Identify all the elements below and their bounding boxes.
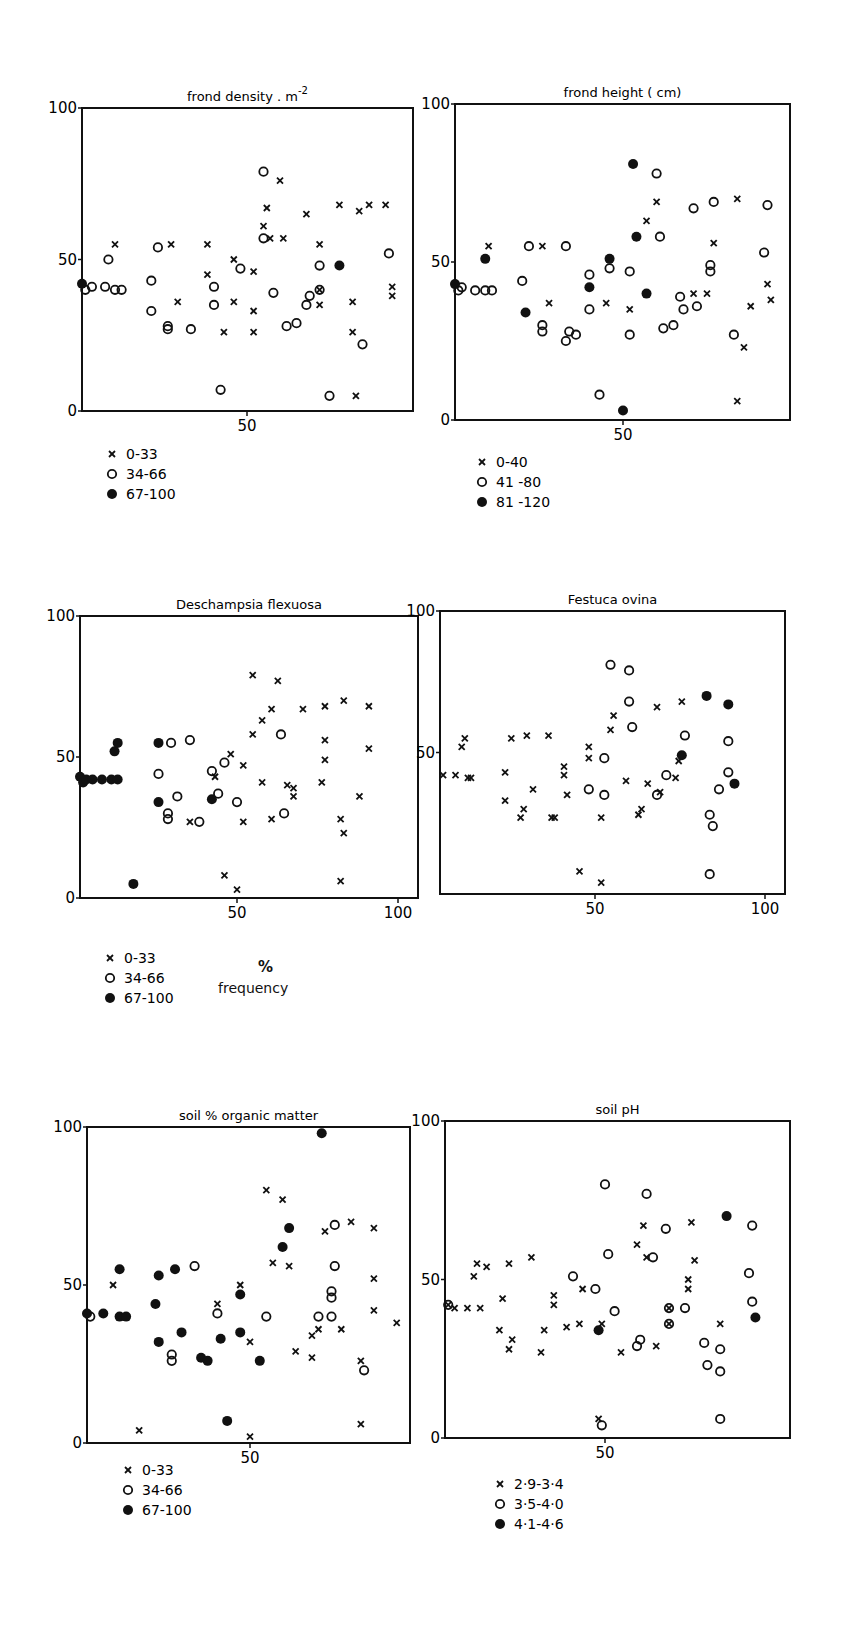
open-circle-marker bbox=[748, 1297, 756, 1305]
open-circle-marker bbox=[220, 758, 228, 766]
open-circle-marker bbox=[652, 169, 660, 177]
cross-marker bbox=[768, 297, 774, 303]
filled-circle-marker bbox=[113, 775, 123, 785]
x-axis-unit-label: % bbox=[258, 958, 273, 976]
cross-marker bbox=[204, 241, 210, 247]
open-circle-marker bbox=[195, 818, 203, 826]
cross-marker bbox=[322, 737, 328, 743]
cross-marker bbox=[251, 329, 257, 335]
x-tick-label: 50 bbox=[237, 417, 256, 435]
open-circle-marker bbox=[562, 337, 570, 345]
legend-label: 67-100 bbox=[126, 486, 176, 502]
legend-label: 0-33 bbox=[126, 446, 158, 462]
cross-marker bbox=[486, 243, 492, 249]
filled-circle-marker bbox=[216, 1334, 226, 1344]
cross-marker bbox=[691, 291, 697, 297]
open-circle-marker bbox=[259, 167, 267, 175]
filled-circle-marker bbox=[677, 750, 687, 760]
open-circle-marker bbox=[689, 204, 697, 212]
panel-title: soil % organic matter bbox=[179, 1108, 319, 1123]
cross-marker bbox=[654, 704, 660, 710]
y-tick-label: 0 bbox=[430, 1429, 440, 1447]
panel-title: frond density . m-2 bbox=[187, 85, 308, 104]
filled-circle-marker bbox=[594, 1325, 604, 1335]
legend-label: 4·1-4·6 bbox=[514, 1516, 564, 1532]
legend-cross-icon bbox=[109, 451, 115, 457]
filled-circle-marker bbox=[584, 282, 594, 292]
plot-frame bbox=[455, 104, 790, 420]
series-34-66 bbox=[81, 167, 393, 400]
open-circle-marker bbox=[331, 1262, 339, 1270]
cross-marker bbox=[240, 762, 246, 768]
x-tick-label: 100 bbox=[384, 904, 413, 922]
cross-marker bbox=[564, 792, 570, 798]
scatter-panel-5: soil % organic matter050100500-3334-6667… bbox=[53, 1108, 410, 1518]
cross-marker bbox=[502, 798, 508, 804]
plot-frame bbox=[440, 611, 785, 894]
series-81-120 bbox=[450, 159, 652, 415]
series-34-66 bbox=[86, 1221, 368, 1375]
open-circle-marker bbox=[669, 321, 677, 329]
filled-circle-marker bbox=[255, 1356, 265, 1366]
filled-circle-marker bbox=[113, 738, 123, 748]
cross-marker bbox=[293, 1348, 299, 1354]
cross-marker bbox=[228, 751, 234, 757]
cross-marker bbox=[673, 775, 679, 781]
cross-marker bbox=[692, 1257, 698, 1263]
cross-marker bbox=[322, 757, 328, 763]
filled-circle-marker bbox=[170, 1264, 180, 1274]
open-circle-marker bbox=[724, 768, 732, 776]
cross-marker bbox=[356, 793, 362, 799]
open-circle-marker bbox=[280, 809, 288, 817]
open-circle-marker bbox=[101, 283, 109, 291]
y-tick-label: 50 bbox=[416, 744, 435, 762]
x-tick-label: 50 bbox=[613, 426, 632, 444]
cross-marker bbox=[251, 269, 257, 275]
cross-marker bbox=[717, 1321, 723, 1327]
cross-marker bbox=[264, 205, 270, 211]
open-circle-marker bbox=[716, 1345, 724, 1353]
open-circle-marker bbox=[591, 1285, 599, 1293]
cross-marker bbox=[336, 202, 342, 208]
filled-circle-marker bbox=[154, 1337, 164, 1347]
cross-marker bbox=[734, 398, 740, 404]
open-circle-marker bbox=[601, 1180, 609, 1188]
cross-marker bbox=[309, 1333, 315, 1339]
y-tick-label: 50 bbox=[431, 253, 450, 271]
cross-marker bbox=[627, 306, 633, 312]
cross-marker bbox=[741, 344, 747, 350]
legend-open-circle-icon bbox=[106, 974, 114, 982]
cross-marker bbox=[315, 1326, 321, 1332]
cross-marker bbox=[350, 299, 356, 305]
open-circle-marker bbox=[164, 809, 172, 817]
y-tick-label: 50 bbox=[58, 251, 77, 269]
series-67-100 bbox=[82, 1128, 327, 1426]
cross-marker bbox=[341, 830, 347, 836]
filled-circle-marker bbox=[177, 1327, 187, 1337]
cross-marker bbox=[175, 299, 181, 305]
filled-circle-marker bbox=[128, 879, 138, 889]
cross-marker bbox=[371, 1276, 377, 1282]
open-circle-marker bbox=[210, 283, 218, 291]
x-tick-label: 50 bbox=[585, 900, 604, 918]
series-34-66 bbox=[154, 730, 288, 826]
open-circle-marker bbox=[236, 264, 244, 272]
open-circle-marker bbox=[569, 1272, 577, 1280]
cross-marker bbox=[586, 744, 592, 750]
filled-circle-marker bbox=[121, 1312, 131, 1322]
legend-label: 3·5-4·0 bbox=[514, 1496, 564, 1512]
cross-marker bbox=[640, 1223, 646, 1229]
cross-marker bbox=[366, 746, 372, 752]
open-circle-marker bbox=[331, 1221, 339, 1229]
cross-marker bbox=[445, 1302, 451, 1308]
open-circle-marker bbox=[385, 249, 393, 257]
cross-marker bbox=[453, 772, 459, 778]
filled-circle-marker bbox=[284, 1223, 294, 1233]
open-circle-marker bbox=[606, 661, 614, 669]
legend-open-circle-icon bbox=[124, 1486, 132, 1494]
cross-marker bbox=[187, 819, 193, 825]
series-3-5-4-0 bbox=[444, 1180, 756, 1429]
open-circle-marker bbox=[360, 1366, 368, 1374]
open-circle-marker bbox=[325, 392, 333, 400]
cross-marker bbox=[277, 178, 283, 184]
